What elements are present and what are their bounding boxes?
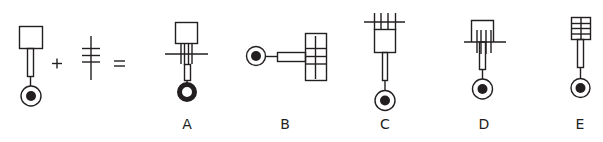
- option-d-figure[interactable]: [464, 21, 506, 100]
- option-c-label: C: [380, 116, 390, 132]
- option-e-label: E: [576, 116, 585, 132]
- option-e-figure[interactable]: [571, 18, 591, 98]
- option-a-label: A: [182, 116, 192, 132]
- plus-sign-icon: [52, 59, 62, 69]
- option-a-figure[interactable]: [165, 23, 208, 100]
- key-dot: [26, 91, 36, 101]
- option-a-thick-ring: [180, 85, 195, 100]
- option-d-label: D: [479, 116, 490, 132]
- diagram-canvas: [0, 0, 603, 142]
- key-square-head: [20, 27, 43, 49]
- option-b-label: B: [280, 116, 290, 132]
- key-stem: [28, 49, 34, 77]
- premise-key-figure: [20, 27, 43, 107]
- option-b-figure[interactable]: [247, 34, 327, 81]
- equals-sign-icon: [114, 61, 125, 66]
- premise-ladder-figure: [82, 36, 100, 80]
- option-c-figure[interactable]: [364, 13, 405, 111]
